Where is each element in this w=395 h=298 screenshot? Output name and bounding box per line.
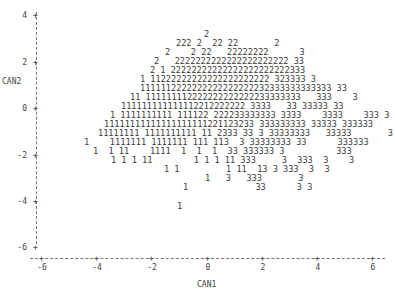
y-tick-label: -2 (0, 151, 27, 160)
y-tick-label: 4 (0, 11, 27, 20)
x-tick-label: 2 (261, 263, 266, 272)
x-tick-label: -6 (37, 263, 47, 272)
y-tick-label: -4 (0, 197, 27, 206)
x-tick-mark: + (39, 254, 44, 263)
text-scatter-plot: CAN2 CAN1 4+2+0+-2+-4+-6+ +-6+-4+-2+0+2+… (0, 0, 395, 298)
x-tick-label: 4 (316, 263, 321, 272)
y-tick-mark: + (33, 104, 38, 113)
x-tick-mark: + (205, 254, 210, 263)
x-tick-label: 0 (206, 263, 211, 272)
x-tick-mark: + (94, 254, 99, 263)
x-tick-label: -2 (147, 263, 157, 272)
y-tick-mark: + (33, 151, 38, 160)
x-tick-label: -4 (92, 263, 102, 272)
x-tick-mark: + (149, 254, 154, 263)
y-axis-title: CAN2 (2, 77, 21, 86)
plot-row: 1 (177, 202, 182, 211)
x-tick-mark: + (260, 254, 265, 263)
y-tick-label: 2 (0, 58, 27, 67)
x-tick-mark: + (315, 254, 320, 263)
x-axis-title: CAN1 (197, 280, 216, 289)
plot-row: 1 33 3 3 (183, 183, 312, 192)
y-tick-mark: + (33, 58, 38, 67)
y-axis-line (36, 12, 38, 244)
y-tick-mark: + (33, 243, 38, 252)
y-tick-mark: + (33, 197, 38, 206)
x-tick-label: 6 (371, 263, 376, 272)
y-tick-label: 0 (0, 104, 27, 113)
y-tick-label: -6 (0, 243, 27, 252)
y-tick-mark: + (33, 11, 38, 20)
x-tick-mark: + (370, 254, 375, 263)
